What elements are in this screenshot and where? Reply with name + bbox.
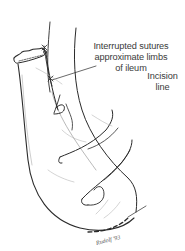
incision-annotation: Incision line <box>140 71 185 93</box>
ileum-illustration: Rudolf '93 <box>0 0 185 251</box>
sutures-annotation-line-2: approximate limbs <box>86 52 176 63</box>
sutures-annotation: Interrupted sutures approximate limbs of… <box>86 41 176 74</box>
incision-annotation-line-2: line <box>140 82 185 93</box>
incision-leader-line <box>128 206 146 217</box>
sutures-annotation-line-1: Interrupted sutures <box>86 41 176 52</box>
incision-annotation-line-1: Incision <box>140 71 185 82</box>
suture-line <box>42 45 53 86</box>
loop-sutures <box>54 95 132 205</box>
shading <box>36 68 120 218</box>
artist-signature: Rudolf '93 <box>94 234 120 246</box>
anterior-ileum-limb <box>14 48 134 230</box>
